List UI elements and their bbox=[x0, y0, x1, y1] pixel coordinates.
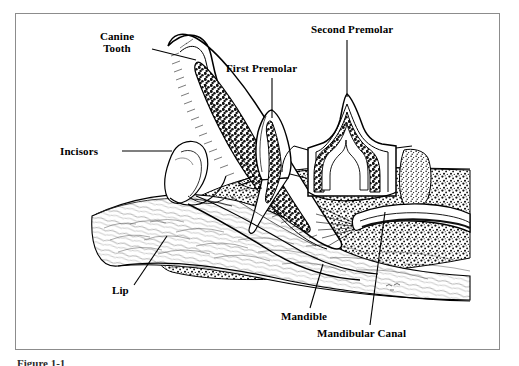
leader-canine-tooth bbox=[152, 49, 196, 60]
label-incisors: Incisors bbox=[60, 145, 98, 157]
label-mandibular-canal: Mandibular Canal bbox=[317, 327, 406, 339]
label-first-premolar: First Premolar bbox=[226, 62, 297, 74]
label-second-premolar: Second Premolar bbox=[311, 23, 393, 35]
alveolar-bone-column bbox=[400, 149, 432, 207]
figure-caption: Figure 1-1 bbox=[17, 357, 65, 366]
anatomical-illustration bbox=[0, 0, 519, 366]
label-mandible: Mandible bbox=[281, 310, 327, 322]
label-canine-tooth: Canine Tooth bbox=[84, 30, 150, 54]
label-lip: Lip bbox=[112, 284, 129, 296]
figure-container: Canine Tooth Incisors First Premolar Sec… bbox=[0, 0, 519, 366]
